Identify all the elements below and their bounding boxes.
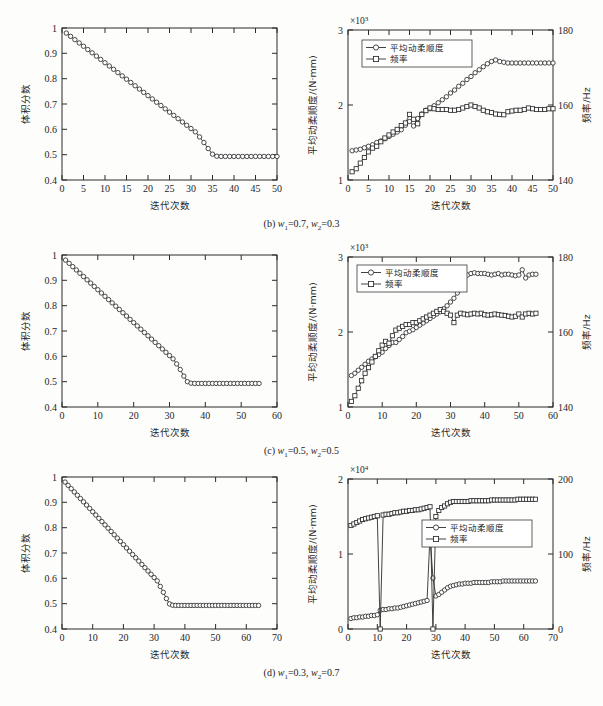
- data-point: [167, 110, 171, 114]
- data-point: [477, 106, 481, 110]
- data-point: [77, 41, 81, 45]
- data-point: [245, 154, 249, 158]
- data-point: [146, 334, 150, 338]
- data-point: [534, 311, 538, 315]
- data-point: [477, 68, 481, 72]
- data-point: [489, 110, 493, 114]
- x-tick-label: 0: [346, 183, 351, 194]
- data-point: [90, 51, 94, 55]
- data-point: [461, 106, 465, 110]
- data-point: [236, 154, 240, 158]
- chart-c-left-svg: 0 10 20 30 40 50 60 0.4 0.5 0.6 0.7 0.8 …: [0, 240, 300, 445]
- data-point: [117, 307, 121, 311]
- data-point: [92, 284, 96, 288]
- panel-c-right: ×103 0: [300, 240, 603, 445]
- data-point: [533, 579, 537, 583]
- data-markers: [63, 258, 261, 386]
- data-point: [375, 613, 379, 617]
- data-point: [387, 133, 391, 137]
- legend-c-right[interactable]: 平均动柔顺度 频率: [357, 265, 467, 292]
- data-point: [440, 107, 444, 111]
- x-axis-label: 迭代次数: [150, 427, 190, 438]
- legend-d-right[interactable]: 平均动柔顺度 频率: [422, 520, 532, 547]
- data-point: [116, 70, 120, 74]
- x-axis-label: 迭代次数: [150, 649, 190, 660]
- data-point: [370, 360, 374, 364]
- data-point: [395, 127, 399, 131]
- data-point: [172, 113, 176, 117]
- x-tick-label: 10: [377, 410, 387, 421]
- series-volume-fraction: [64, 31, 279, 159]
- data-point: [135, 324, 139, 328]
- x-tick-label: 5: [366, 183, 371, 194]
- x-tick-label: 40: [480, 410, 490, 421]
- y-tick-label: 1: [338, 549, 343, 560]
- x-tick-label: 10: [372, 632, 382, 643]
- x-tick-label: 60: [548, 410, 558, 421]
- x-tick-label: 70: [548, 632, 558, 643]
- data-point: [428, 505, 432, 509]
- y-tick-label: 1: [338, 175, 343, 186]
- data-point: [350, 149, 354, 153]
- data-point: [68, 34, 72, 38]
- series-volume-fraction: [63, 258, 261, 386]
- data-point: [206, 146, 210, 150]
- legend-label: 频率: [450, 534, 468, 544]
- x-tick-label: 0: [60, 632, 65, 643]
- x-tick-label: 60: [241, 632, 251, 643]
- panel-row-c: 0 10 20 30 40 50 60 0.4 0.5 0.6 0.7 0.8 …: [0, 240, 603, 445]
- x-tick-label: 20: [129, 410, 139, 421]
- y-tick-label: 0.7: [45, 99, 58, 110]
- data-point: [133, 84, 137, 88]
- y-tick-label-right: 180: [558, 25, 573, 36]
- data-markers: [63, 480, 261, 608]
- x-tick-label: 40: [180, 632, 190, 643]
- panel-b-right: ×103: [300, 0, 603, 218]
- data-point: [232, 154, 236, 158]
- x-tick-label: 10: [93, 410, 103, 421]
- data-point: [425, 598, 429, 602]
- x-tick-label: 25: [446, 183, 456, 194]
- data-point: [506, 110, 510, 114]
- y-tick-label: 0: [338, 624, 343, 635]
- y-tick-label: 1: [52, 250, 57, 261]
- data-point: [448, 313, 452, 317]
- y-tick-label: 2: [338, 327, 343, 338]
- x-tick-label: 10: [384, 183, 394, 194]
- data-point: [360, 379, 364, 383]
- y-axis-exponent: ×103: [350, 15, 369, 27]
- data-point: [354, 148, 358, 152]
- data-point: [137, 87, 141, 91]
- data-point: [353, 394, 357, 398]
- data-point: [103, 294, 107, 298]
- x-ticklabels-b-left: 0 5 10 15 20 25 30 35 40 45 50: [60, 183, 283, 194]
- x-tick-label: 20: [118, 632, 128, 643]
- data-point: [534, 272, 538, 276]
- x-tick-label: 50: [272, 183, 282, 194]
- data-point: [445, 304, 449, 308]
- series-group: [349, 497, 538, 631]
- data-point: [182, 374, 186, 378]
- data-point: [387, 341, 391, 345]
- data-point: [129, 80, 133, 84]
- y-tick-label: 3: [338, 25, 343, 36]
- data-point: [257, 381, 261, 385]
- x-tick-label: 0: [60, 183, 65, 194]
- data-point: [350, 170, 354, 174]
- data-point: [510, 109, 514, 113]
- data-point: [436, 107, 440, 111]
- data-point: [266, 154, 270, 158]
- data-point: [142, 330, 146, 334]
- data-point: [498, 112, 502, 116]
- y-tick-label: 0.7: [45, 548, 58, 559]
- data-point: [399, 124, 403, 128]
- data-point: [428, 106, 432, 110]
- data-point: [465, 104, 469, 108]
- y-axis-exponent: ×104: [350, 464, 369, 476]
- legend-b-right[interactable]: 平均动柔顺度 频率: [362, 40, 472, 67]
- chart-b-right-svg: ×103: [300, 0, 603, 218]
- y-tick-label: 0.5: [45, 376, 58, 387]
- data-point: [210, 152, 214, 156]
- data-point: [412, 117, 416, 121]
- x-tick-label: 15: [405, 183, 415, 194]
